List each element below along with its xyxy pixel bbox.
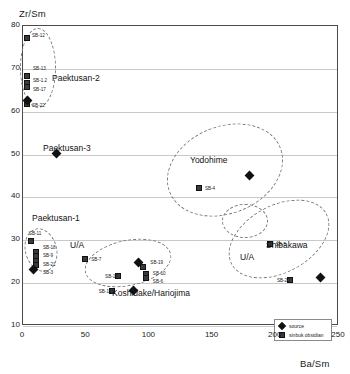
x-axis-tick-label: 50 [70,330,100,339]
data-point-label: SB-3 [43,270,53,275]
cluster-label-koshidake-hariojima: Koshidake/Hariojima [112,288,190,298]
data-point-sb-7 [82,256,88,262]
cluster-ellipse-cluster-sb5 [222,204,268,238]
x-axis-tick-label: 100 [133,330,163,339]
y-axis-tick-label: 50 [0,149,20,158]
cluster-label-paektusan-1: Paektusan-1 [32,213,80,223]
cluster-label-shibakawa: Shibakawa [266,240,308,250]
data-point-label: SB-9 [43,253,53,258]
data-point-label: SB-13 [33,66,46,71]
y-axis-tick-label: 10 [0,320,20,329]
x-axis-title: Ba/Sm [300,358,330,369]
cluster-label-paektusan-3: Paektusan-3 [43,143,91,153]
x-axis-tick-label: 250 [323,330,350,339]
y-axis-tick-label: 40 [0,191,20,200]
data-point-sb-4 [196,185,202,191]
x-axis-tick-label: 200 [260,330,290,339]
data-point-label: SB-21 [43,262,56,267]
legend-item-source: source [278,322,328,330]
x-axis-tick-label: 150 [197,330,227,339]
data-point-label: SB-11 [29,231,41,236]
data-point-sb-13 [24,73,30,79]
data-point-label: SB-7 [91,257,101,262]
legend-label-source: source [289,323,304,329]
y-axis-title: Zr/Sm [19,8,46,19]
data-point-label: SB-16 [99,289,112,294]
cluster-label-u-a-right: U/A [240,252,254,262]
diamond-marker-icon [278,322,286,330]
data-point-label: SB-19 [150,260,163,265]
data-point-label: SB-17 [33,87,46,92]
x-axis-tick-label: 0 [7,330,37,339]
figure-scatter-plot: Zr/Sm Ba/Sm source sinbuk obsidian 10203… [0,0,350,374]
data-point-sb-17 [24,84,30,90]
y-axis-tick-label: 20 [0,277,20,286]
data-point-label: SB-20 [277,278,290,283]
data-point-label: SB-22 [32,103,45,108]
data-point-label: SB-12 [32,33,45,38]
y-axis-tick-label: 70 [0,63,20,72]
cluster-label-u-a-left: U/A [70,240,84,250]
gridline-y [23,69,337,70]
data-point-sb-12 [24,35,30,41]
y-axis-tick-label: 80 [0,20,20,29]
data-point-label: SB-6 [153,279,163,284]
data-point-sb-11 [28,238,34,244]
data-point-sb-19 [140,264,146,270]
y-axis-tick-label: 60 [0,106,20,115]
data-point-label: SB-10 [153,271,166,276]
cluster-label-paektusan-2: Paektusan-2 [52,73,100,83]
data-point-label: SB-15 [105,274,118,279]
data-point-label: SB-1.2 [33,78,47,83]
gridline-y [23,283,337,284]
legend-label-sinbuk-obsidian: sinbuk obsidian [289,332,323,338]
gridline-y [23,112,337,113]
data-point-sb-6 [143,275,149,281]
cluster-label-yodohime: Yodohime [190,155,228,165]
data-point-label: SB-18 [43,245,56,250]
data-point-label: SB-4 [205,186,215,191]
y-axis-tick-label: 30 [0,234,20,243]
